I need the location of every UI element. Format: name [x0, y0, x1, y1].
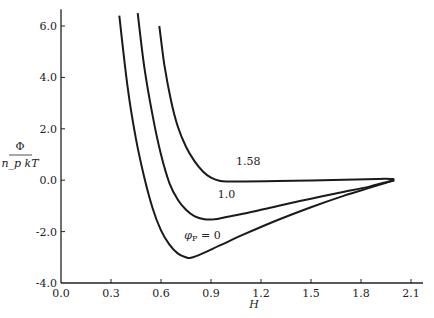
series-line--p-0 [119, 16, 394, 258]
series-line-1_58 [159, 26, 394, 182]
curves [119, 13, 394, 258]
y-tick-label: -2.0 [36, 226, 57, 239]
x-tick-label: 0.9 [202, 287, 220, 300]
y-tick-label: -4.0 [36, 277, 57, 290]
y-tick-label: 6.0 [40, 20, 58, 33]
x-tick-label: 2.1 [402, 287, 420, 300]
y-axis-label-numerator: Φ [15, 140, 24, 153]
curve-annotation: 1.0 [218, 188, 236, 201]
y-tick-label: 0.0 [40, 174, 58, 187]
y-tick-label: 2.0 [40, 123, 58, 136]
x-ticks: 0.00.30.60.91.21.51.82.1 [52, 279, 420, 300]
y-axis-label: Φ n_p kT [1, 140, 40, 170]
annotations: 1.581.0φP = 0 [184, 155, 260, 244]
axes [61, 9, 423, 283]
x-tick-label: 0.3 [102, 287, 120, 300]
chart: 0.00.30.60.91.21.51.82.1 6.04.02.00.0-2.… [0, 0, 434, 318]
curve-annotation: 1.58 [236, 155, 261, 168]
series-line-1_0 [138, 13, 395, 220]
y-axis-label-denominator: n_p kT [1, 157, 40, 170]
curve-annotation: φP = 0 [184, 229, 220, 243]
x-tick-label: 1.5 [302, 287, 320, 300]
y-tick-label: 4.0 [40, 71, 58, 84]
x-axis-label: H [248, 298, 259, 311]
x-tick-label: 1.8 [352, 287, 370, 300]
x-tick-label: 0.6 [152, 287, 170, 300]
